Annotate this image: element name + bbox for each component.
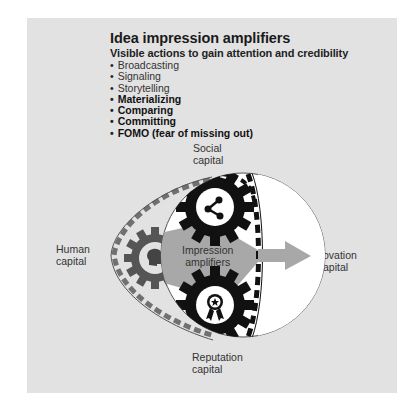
center-label-line1: Impression (182, 244, 233, 256)
social-capital-label: Social capital (193, 142, 223, 166)
social-label-line2: capital (193, 154, 223, 166)
reputation-capital-label: Reputation capital (192, 351, 243, 375)
impression-amplifiers-label: Impression amplifiers (182, 244, 233, 268)
reputation-label-line1: Reputation (192, 351, 243, 363)
human-label-line1: Human (56, 243, 90, 255)
gear-diagram (0, 0, 417, 409)
human-capital-label: Human capital (56, 243, 90, 267)
reputation-label-line2: capital (192, 363, 243, 375)
human-label-line2: capital (56, 255, 90, 267)
social-label-line1: Social (193, 142, 223, 154)
center-label-line2: amplifiers (182, 256, 233, 268)
